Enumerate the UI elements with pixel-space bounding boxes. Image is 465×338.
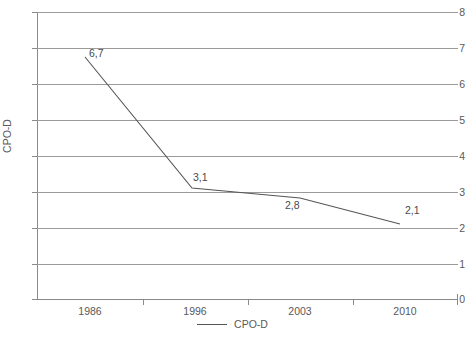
x-tick-mark-4	[457, 300, 458, 305]
x-tick-label-1996: 1996	[160, 305, 230, 317]
x-tick-mark-3	[353, 300, 354, 305]
gridline-8	[37, 12, 458, 13]
gridline-4	[37, 156, 458, 157]
point-label-2010: 2,1	[405, 205, 420, 216]
point-label-1986: 6,7	[89, 48, 104, 59]
gridline-1	[37, 264, 458, 265]
chart-legend: CPO-D	[0, 318, 465, 330]
legend-label-cpo-d: CPO-D	[234, 318, 268, 330]
x-tick-label-2010: 2010	[370, 305, 440, 317]
y-axis-title: CPO-D	[1, 101, 13, 171]
gridline-5	[37, 120, 458, 121]
x-tick-mark-1	[143, 300, 144, 305]
gridline-6	[37, 84, 458, 85]
gridline-3	[37, 192, 458, 193]
point-label-1996: 3,1	[193, 172, 208, 183]
x-tick-label-2003: 2003	[265, 305, 335, 317]
x-tick-mark-2	[248, 300, 249, 305]
point-label-2003: 2,8	[285, 200, 300, 211]
line-chart: CPO-D 8 7 6 5 4 3 2 1 0 1986 1996 2003 2…	[0, 0, 465, 338]
x-tick-label-1986: 1986	[55, 305, 125, 317]
gridline-2	[37, 228, 458, 229]
legend-line-swatch	[197, 324, 227, 325]
